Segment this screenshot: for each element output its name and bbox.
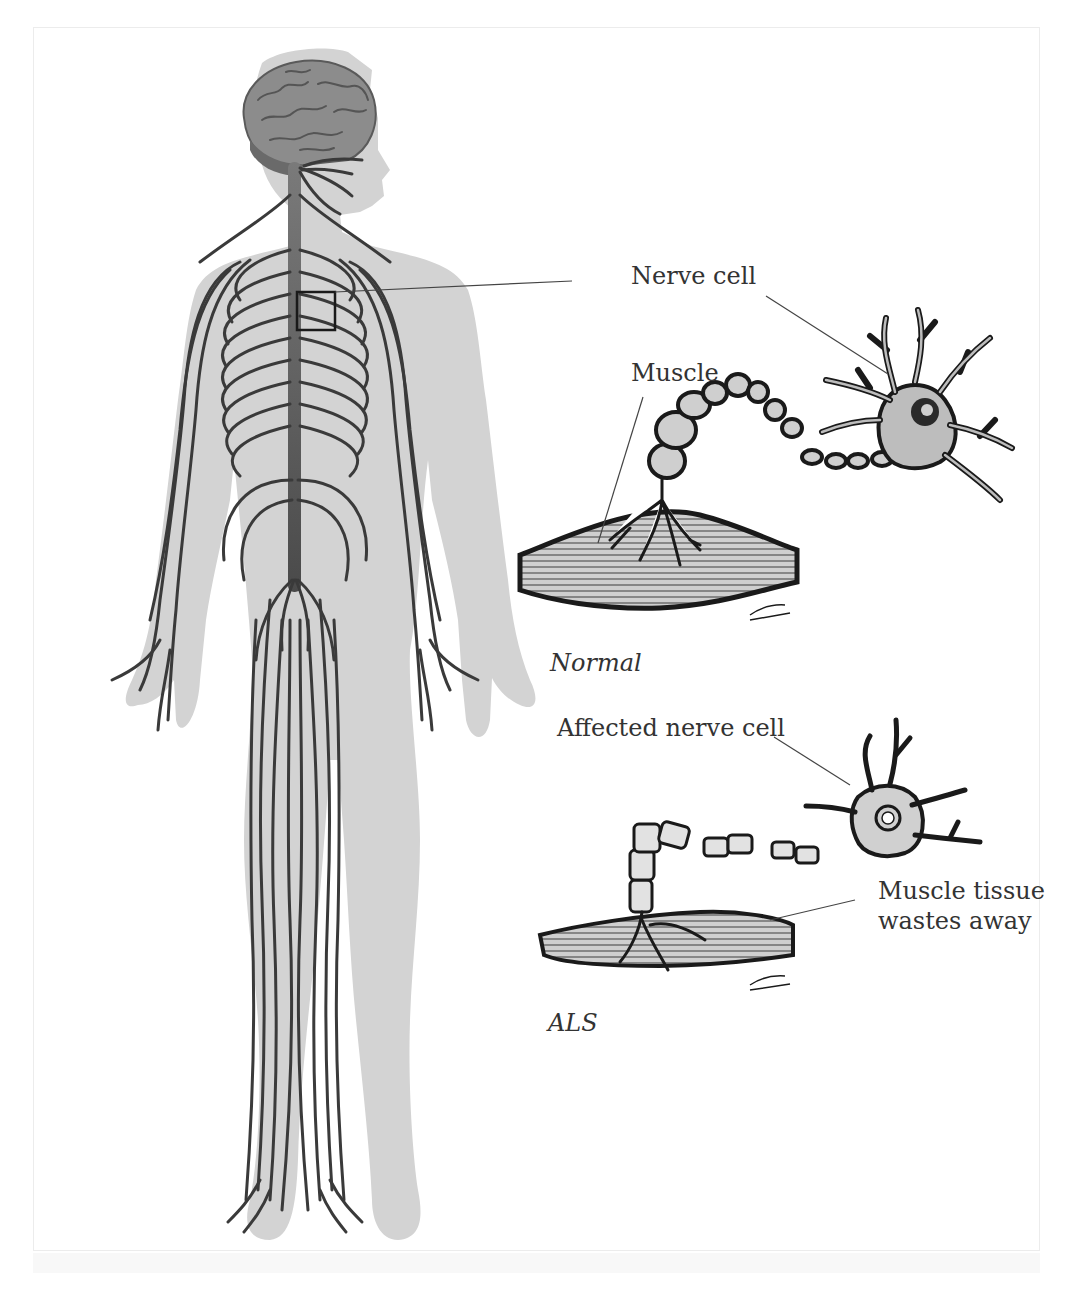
label-muscle: Muscle (631, 360, 719, 386)
label-nerve-cell: Nerve cell (631, 263, 756, 289)
diagram-canvas (0, 0, 1076, 1310)
label-als: ALS (548, 1010, 598, 1036)
als-neuron (540, 720, 980, 990)
label-muscle-tissue-line1: Muscle tissue (878, 876, 1045, 906)
label-affected-nerve-cell: Affected nerve cell (557, 715, 785, 741)
label-muscle-tissue-line2: wastes away (878, 906, 1045, 936)
label-normal: Normal (550, 650, 642, 676)
normal-neuron (520, 296, 1012, 620)
spinal-cord (288, 162, 301, 592)
label-muscle-tissue-wastes-away: Muscle tissue wastes away (878, 876, 1045, 936)
